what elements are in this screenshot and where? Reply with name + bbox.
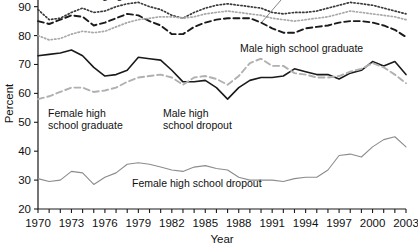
- y-axis-tick-label: 90: [18, 1, 31, 13]
- series-annotations: Male college graduateMale high school gr…: [48, 0, 363, 189]
- y-axis-tick-label: 20: [18, 203, 31, 215]
- x-axis-tick-label: 1991: [259, 217, 285, 229]
- x-axis-tick-label: 1985: [192, 217, 218, 229]
- chart-canvas: 2030405060708090197019731976197919821985…: [0, 0, 418, 246]
- x-axis-tick-label: 1973: [59, 217, 85, 229]
- line-chart: 2030405060708090197019731976197919821985…: [0, 0, 418, 246]
- female-high-school-graduate-label: Female highschool graduate: [48, 107, 123, 131]
- female-high-school-dropout-label: Female high school dropout: [132, 177, 262, 189]
- x-axis-title: Year: [210, 233, 233, 245]
- y-axis-tick-label: 70: [18, 58, 31, 70]
- x-axis-tick-label: 1982: [159, 217, 185, 229]
- y-axis-tick-label: 80: [18, 30, 31, 42]
- male-college-graduate-label: Male college graduate: [55, 0, 158, 1]
- male-high-school-graduate-label: Male high school graduate: [240, 42, 363, 54]
- x-axis-tick-label: 1994: [293, 217, 319, 229]
- y-axis-tick-label: 50: [18, 116, 31, 128]
- data-series: [38, 2, 406, 184]
- y-axis-tick-label: 60: [18, 87, 31, 99]
- y-axis-tick-label: 30: [18, 174, 31, 186]
- male-high-school-dropout-label: Male highschool dropout: [163, 107, 232, 131]
- x-axis-tick-label: 1988: [226, 217, 252, 229]
- series-line-male-high-school-graduate: [38, 14, 406, 37]
- x-axis-tick-label: 1997: [326, 217, 352, 229]
- y-axis-title: Percent: [3, 83, 15, 123]
- x-axis-tick-label: 1979: [126, 217, 152, 229]
- x-axis-tick-label: 2000: [360, 217, 386, 229]
- x-axis-tick-label: 1970: [25, 217, 51, 229]
- y-axis-tick-label: 40: [18, 145, 31, 157]
- x-axis-tick-label: 1976: [92, 217, 118, 229]
- x-axis-tick-label: 2003: [393, 217, 418, 229]
